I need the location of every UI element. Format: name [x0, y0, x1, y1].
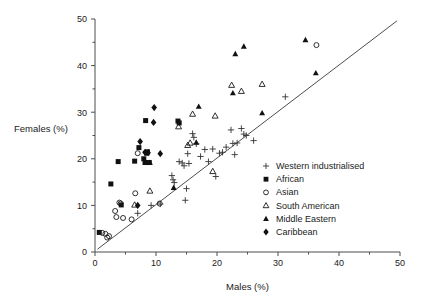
- data-point: [147, 188, 153, 193]
- data-point: [148, 202, 154, 208]
- y-tick-label: 20: [77, 154, 87, 164]
- y-tick-label: 50: [77, 14, 87, 24]
- legend-entry-label: Asian: [276, 187, 299, 197]
- data-point: [132, 159, 137, 164]
- data-point: [143, 118, 148, 123]
- data-point: [202, 146, 208, 152]
- data-point: [171, 185, 177, 190]
- plot-canvas: 0102030405001020304050Males (%)Females (…: [0, 0, 428, 296]
- data-point: [314, 43, 319, 48]
- data-point: [238, 88, 244, 93]
- data-point: [121, 215, 126, 220]
- data-point: [170, 177, 176, 183]
- plus-icon: [263, 163, 269, 169]
- legend-entry-label: Middle Eastern: [276, 214, 336, 224]
- data-point: [151, 104, 157, 111]
- data-point: [108, 181, 113, 186]
- y-tick-label: 10: [77, 201, 87, 211]
- data-point: [151, 119, 157, 126]
- data-point: [116, 159, 121, 164]
- data-point: [129, 217, 134, 222]
- x-tick-label: 0: [92, 258, 97, 268]
- data-point: [190, 111, 196, 116]
- data-point: [189, 131, 195, 137]
- x-tick-label: 30: [273, 258, 283, 268]
- data-point: [219, 149, 225, 155]
- data-point: [135, 210, 141, 216]
- data-point: [230, 140, 236, 146]
- legend-entry-label: Western industrialised: [276, 161, 364, 171]
- legend-entry-asian[interactable]: Asian: [264, 187, 299, 197]
- y-tick-label: 30: [77, 108, 87, 118]
- data-point: [133, 191, 138, 196]
- y-tick-label: 0: [82, 247, 87, 257]
- series-western-industrialised: [135, 94, 289, 217]
- data-point: [250, 138, 256, 144]
- data-point: [114, 215, 119, 220]
- data-point: [302, 37, 308, 42]
- data-point: [135, 151, 140, 156]
- data-point: [157, 150, 163, 157]
- circle-open-icon: [264, 190, 269, 195]
- axes-group: [91, 19, 400, 256]
- x-tick-label: 10: [151, 258, 161, 268]
- data-point: [238, 125, 244, 131]
- data-point: [212, 113, 218, 118]
- data-point: [182, 197, 188, 203]
- data-point: [197, 153, 203, 159]
- data-point: [196, 103, 202, 108]
- data-point: [136, 145, 141, 150]
- x-tick-label: 40: [334, 258, 344, 268]
- data-point: [210, 146, 216, 152]
- legend-entry-african[interactable]: African: [264, 174, 304, 184]
- legend: Western industrialisedAfricanAsianSouth …: [263, 161, 364, 237]
- data-point: [183, 185, 189, 191]
- legend-entry-south-american[interactable]: South American: [263, 201, 339, 211]
- legend-entry-label: South American: [276, 201, 340, 211]
- data-point: [171, 179, 177, 185]
- data-point: [205, 158, 211, 164]
- data-point: [210, 168, 216, 173]
- legend-entry-label: Caribbean: [276, 227, 318, 237]
- data-point: [113, 208, 118, 213]
- data-point: [259, 110, 265, 115]
- line-of-equality: [97, 21, 397, 249]
- data-point: [229, 82, 235, 87]
- data-point: [282, 94, 288, 100]
- reference-line: [97, 21, 397, 249]
- data-point: [232, 51, 238, 56]
- triangle-open-icon: [263, 203, 269, 208]
- data-point: [216, 150, 222, 156]
- data-point: [169, 172, 175, 178]
- legend-entry-label: African: [276, 174, 304, 184]
- y-axis-title: Females (%): [14, 123, 68, 134]
- data-point: [143, 160, 148, 165]
- diamond-filled-icon: [263, 229, 268, 236]
- square-filled-icon: [264, 177, 269, 182]
- data-point: [228, 127, 234, 133]
- data-point: [213, 173, 219, 179]
- legend-entry-western-industrialised[interactable]: Western industrialised: [263, 161, 364, 171]
- data-point: [137, 138, 143, 145]
- data-point: [230, 90, 236, 95]
- data-point: [241, 43, 247, 48]
- data-point: [185, 151, 191, 157]
- data-point: [232, 151, 238, 157]
- x-tick-label: 50: [395, 258, 405, 268]
- axis-labels-group: 0102030405001020304050Males (%)Females (…: [14, 14, 405, 292]
- legend-entry-middle-eastern[interactable]: Middle Eastern: [263, 214, 336, 224]
- x-axis-title: Males (%): [226, 281, 269, 292]
- legend-entry-caribbean[interactable]: Caribbean: [263, 227, 317, 237]
- data-point: [259, 81, 265, 86]
- data-point: [176, 158, 182, 164]
- x-tick-label: 20: [212, 258, 222, 268]
- data-point: [191, 134, 197, 140]
- scatter-plot-figure: 0102030405001020304050Males (%)Females (…: [0, 0, 428, 296]
- data-point: [313, 70, 319, 75]
- triangle-filled-icon: [263, 216, 269, 221]
- y-tick-label: 40: [77, 61, 87, 71]
